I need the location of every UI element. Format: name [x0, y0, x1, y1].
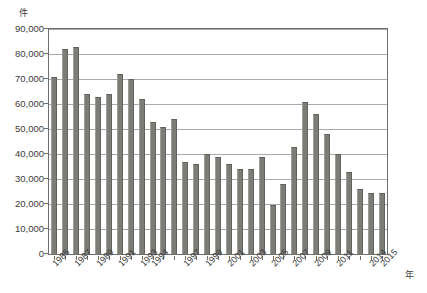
bar: [324, 134, 330, 254]
bar: [335, 154, 341, 254]
bar: [248, 169, 254, 254]
bar: [182, 162, 188, 255]
y-axis-tick-label: 0: [0, 249, 44, 258]
bar: [270, 205, 276, 254]
bar: [215, 157, 221, 255]
bar: [291, 147, 297, 255]
x-axis-tick-mark: [174, 256, 175, 260]
bar-series: [49, 29, 387, 254]
bar: [51, 77, 57, 255]
bar: [117, 74, 123, 254]
bar: [204, 154, 210, 254]
bar: [160, 127, 166, 255]
bar: [193, 164, 199, 254]
bar: [106, 94, 112, 254]
bar: [62, 49, 68, 254]
bar: [346, 172, 352, 255]
y-axis-tick-mark: [44, 78, 48, 79]
y-axis-tick-label: 70,000: [0, 74, 44, 83]
y-axis-tick-mark: [44, 128, 48, 129]
y-axis-tick-mark: [44, 153, 48, 154]
x-axis-tick-mark: [360, 256, 361, 260]
y-axis-tick-label: 20,000: [0, 199, 44, 208]
bar: [259, 157, 265, 255]
bar: [73, 47, 79, 255]
y-axis-tick-label: 90,000: [0, 24, 44, 33]
y-axis-tick-label: 80,000: [0, 49, 44, 58]
bar: [128, 79, 134, 254]
bar: [313, 114, 319, 254]
y-axis-tick-label: 30,000: [0, 174, 44, 183]
y-axis-tick-mark: [44, 103, 48, 104]
y-axis-tick-label: 50,000: [0, 124, 44, 133]
bar: [226, 164, 232, 254]
bar: [302, 102, 308, 255]
y-axis-tick-label: 60,000: [0, 99, 44, 108]
y-axis-tick-mark: [44, 178, 48, 179]
y-axis-tick-label: 10,000: [0, 224, 44, 233]
y-axis-tick-mark: [44, 253, 48, 254]
x-axis-unit-label: 年: [405, 268, 414, 281]
bar: [139, 99, 145, 254]
bar: [84, 94, 90, 254]
bar: [280, 184, 286, 254]
y-axis-unit-label: 件: [0, 8, 46, 18]
bar: [171, 119, 177, 254]
bar-chart: 件 年 90,00080,00070,00060,00050,00040,000…: [0, 0, 427, 293]
bar: [379, 193, 385, 254]
y-axis-tick-label: 40,000: [0, 149, 44, 158]
bar: [150, 122, 156, 255]
bar: [368, 193, 374, 254]
bar: [237, 169, 243, 254]
y-axis-tick-mark: [44, 28, 48, 29]
bar: [95, 97, 101, 255]
y-axis-tick-mark: [44, 53, 48, 54]
y-axis-tick-mark: [44, 228, 48, 229]
y-axis-tick-mark: [44, 203, 48, 204]
bar: [357, 189, 363, 254]
